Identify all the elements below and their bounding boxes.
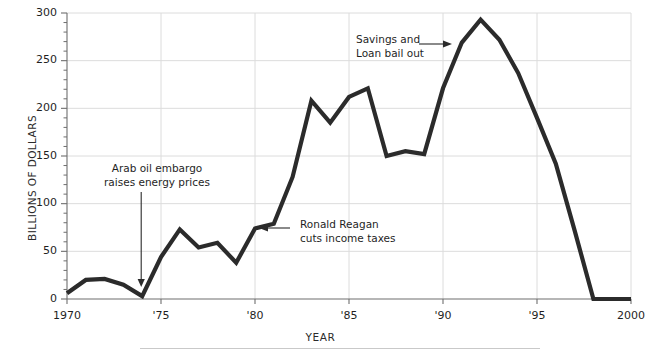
- annotation-savings-and-loan-bailout: Savings andLoan bail out: [356, 33, 486, 60]
- y-tick-label: 250: [5, 53, 57, 66]
- y-tick-label: 300: [5, 6, 57, 19]
- annotation-line: Arab oil embargo: [97, 162, 217, 176]
- y-tick-label: 50: [5, 244, 57, 257]
- annotation-line: Ronald Reagan: [300, 218, 450, 232]
- annotation-line: cuts income taxes: [300, 232, 450, 246]
- y-tick-label: 0: [5, 292, 57, 305]
- y-tick-label: 150: [5, 149, 57, 162]
- x-tick-label: '75: [131, 309, 191, 322]
- x-axis-title: YEAR: [0, 331, 641, 343]
- x-tick-label: 1970: [37, 309, 97, 322]
- gridlines: [67, 13, 631, 299]
- y-tick-label: 200: [5, 101, 57, 114]
- x-tick-label: '90: [413, 309, 473, 322]
- footer-divider: [140, 348, 540, 349]
- annotation-arab-oil-embargo: Arab oil embargoraises energy prices: [97, 162, 217, 189]
- x-tick-label: '85: [319, 309, 379, 322]
- annotation-ronald-reagan-tax-cuts: Ronald Reagancuts income taxes: [300, 218, 450, 245]
- y-tick-label: 100: [5, 196, 57, 209]
- annotation-line: Savings and: [356, 33, 486, 47]
- axis-ticks: [61, 13, 631, 304]
- x-tick-label: 2000: [601, 309, 649, 322]
- annotation-line: raises energy prices: [97, 176, 217, 190]
- x-tick-label: '95: [507, 309, 567, 322]
- x-tick-label: '80: [225, 309, 285, 322]
- annotation-line: Loan bail out: [356, 47, 486, 61]
- annotation-arrow-head: [138, 279, 145, 287]
